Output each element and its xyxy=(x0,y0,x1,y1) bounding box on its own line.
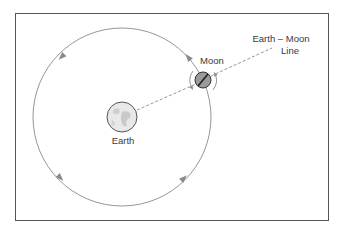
earth-moon-line-label-line2: Line xyxy=(270,45,310,56)
diagram-canvas: Earth Moon Earth – Moon Line xyxy=(0,0,345,230)
earth-moon-line-label-line1: Earth – Moon xyxy=(248,33,314,44)
earth-icon xyxy=(107,102,137,132)
earth-label: Earth xyxy=(108,135,138,146)
moon-label: Moon xyxy=(200,55,224,66)
moon-icon xyxy=(195,72,211,88)
